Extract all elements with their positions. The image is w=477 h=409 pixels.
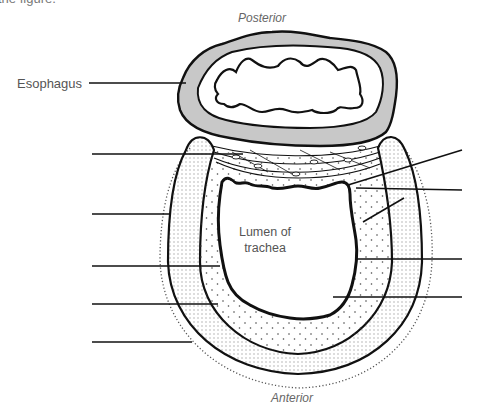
lumen-label-line2: trachea (244, 241, 286, 255)
anterior-label: Anterior (270, 391, 314, 405)
trachea-esophagus-cross-section: Posterior Anterior Lumen of trachea Esop… (0, 0, 477, 409)
posterior-label: Posterior (238, 11, 287, 25)
lumen-label-line1: Lumen of (239, 225, 292, 239)
esophagus-label: Esophagus (17, 76, 83, 91)
